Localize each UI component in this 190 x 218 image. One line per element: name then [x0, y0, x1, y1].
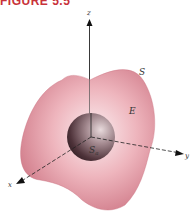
x-axis-arrowhead-icon — [16, 177, 25, 184]
inner-sphere-label-sub: a — [95, 150, 98, 156]
surface-s-label: S — [139, 67, 145, 77]
x-axis-label: x — [8, 181, 12, 189]
region-e-label: E — [128, 106, 136, 116]
z-axis-label: z — [86, 9, 91, 17]
z-axis-arrowhead-icon — [87, 19, 93, 26]
y-axis-label: y — [184, 152, 190, 160]
vector-field-diagram: z y x S E Sa — [0, 0, 190, 218]
y-axis-arrowhead-icon — [175, 150, 184, 156]
